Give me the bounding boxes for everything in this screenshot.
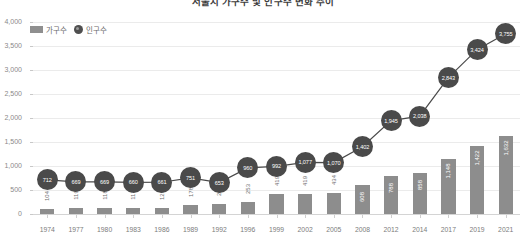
data-point-2019[interactable]: 3,424 [467,39,488,60]
data-point-2014[interactable]: 2,038 [409,106,430,127]
y-axis-label: 4,000 [0,18,22,25]
x-axis-tick [47,215,48,218]
x-axis-tick [105,215,106,218]
x-axis-tick [133,215,134,218]
x-axis-tick [277,215,278,218]
data-point-2002[interactable]: 1,077 [295,152,316,173]
x-axis-tick [506,215,507,218]
x-axis-tick [477,215,478,218]
y-axis-label: 3,500 [0,42,22,49]
chart-container: 서울시 가구수 및 인구수 변화 추이 가구수 인구수 05001,0001,5… [0,0,526,241]
data-point-2012[interactable]: 1,945 [381,110,402,131]
x-axis-tick [334,215,335,218]
data-point-2008[interactable]: 1,402 [352,136,373,157]
y-axis-label: 3,000 [0,66,22,73]
y-axis-label: 500 [0,186,22,193]
x-axis-tick [391,215,392,218]
x-axis-tick [248,215,249,218]
population-line [33,0,520,241]
data-point-1992[interactable]: 653 [209,172,230,193]
y-axis-label: 2,000 [0,114,22,121]
x-axis-tick [191,215,192,218]
y-axis-label: 1,000 [0,162,22,169]
y-axis-label: 0 [0,210,22,217]
x-axis-tick [76,215,77,218]
y-axis-label: 2,500 [0,90,22,97]
x-axis-label-2021: 2021 [486,226,526,233]
data-point-2017[interactable]: 2,843 [438,67,459,88]
plot-area: 05001,0001,5002,0002,5003,0003,5004,000 … [33,0,520,241]
data-point-1983[interactable]: 660 [123,172,144,193]
y-axis-label: 1,500 [0,138,22,145]
x-axis-tick [362,215,363,218]
x-axis-tick [219,215,220,218]
data-point-1999[interactable]: 992 [266,156,287,177]
x-axis-tick [448,215,449,218]
x-axis-tick [305,215,306,218]
x-axis-tick [162,215,163,218]
x-axis-tick [420,215,421,218]
data-point-1974[interactable]: 712 [37,169,58,190]
